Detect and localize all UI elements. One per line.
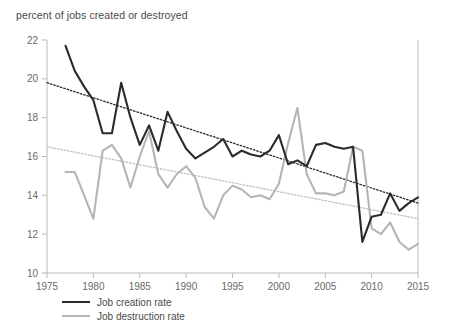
svg-text:2010: 2010 [361, 281, 384, 292]
svg-text:14: 14 [27, 190, 39, 201]
svg-text:16: 16 [27, 151, 39, 162]
legend-swatch-icon-destruction [62, 315, 90, 317]
legend-item-job-creation-rate: Job creation rate [62, 295, 185, 309]
series-job-creation-rate [66, 46, 418, 242]
legend-item-job-destruction-rate: Job destruction rate [62, 309, 185, 323]
svg-text:1980: 1980 [82, 281, 105, 292]
svg-text:10: 10 [27, 268, 39, 279]
svg-text:2000: 2000 [268, 281, 291, 292]
y-axis-ticks: 10121416182022 [27, 35, 47, 279]
svg-text:1995: 1995 [221, 281, 244, 292]
svg-text:1985: 1985 [129, 281, 152, 292]
svg-text:2005: 2005 [314, 281, 337, 292]
svg-text:1990: 1990 [175, 281, 198, 292]
svg-text:12: 12 [27, 229, 39, 240]
svg-text:1975: 1975 [36, 281, 59, 292]
svg-text:20: 20 [27, 73, 39, 84]
svg-text:18: 18 [27, 112, 39, 123]
legend-label-job-destruction-rate: Job destruction rate [97, 311, 185, 322]
legend-label-job-creation-rate: Job creation rate [97, 297, 172, 308]
legend-swatch-icon-creation [62, 301, 90, 303]
chart-plot-area: 10121416182022 1975198019851990199520002… [0, 0, 449, 325]
svg-text:22: 22 [27, 35, 39, 46]
x-axis-ticks: 197519801985199019952000200520102015 [36, 273, 430, 292]
svg-text:2015: 2015 [407, 281, 430, 292]
series-job-destruction-rate [66, 108, 418, 250]
chart-container: percent of jobs created or destroyed 101… [0, 0, 449, 325]
chart-legend: Job creation rate Job destruction rate [62, 295, 185, 323]
